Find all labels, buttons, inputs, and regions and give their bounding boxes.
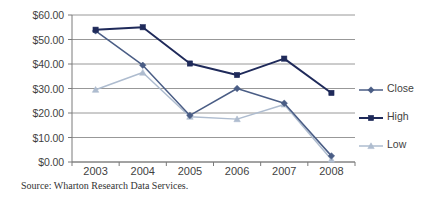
data-point-marker	[93, 27, 98, 32]
series-high	[93, 25, 334, 96]
series-close	[92, 28, 334, 159]
data-point-marker	[282, 56, 287, 61]
legend-label: Low	[387, 138, 406, 150]
data-point-marker	[234, 72, 239, 77]
data-point-marker	[140, 69, 146, 75]
y-tick-label: $10.00	[32, 132, 64, 144]
y-tick-label: $20.00	[32, 107, 64, 119]
chart-legend: CloseHighLow	[358, 78, 433, 162]
chart-canvas	[72, 15, 355, 162]
data-point-marker	[234, 85, 240, 91]
data-point-marker	[140, 25, 145, 30]
legend-item-high[interactable]: High	[358, 106, 433, 126]
source-caption: Source: Wharton Research Data Services.	[21, 180, 188, 191]
legend-marker	[368, 87, 374, 93]
series-low	[92, 69, 334, 162]
x-tick-label: 2007	[272, 165, 296, 177]
x-tick-label: 2005	[178, 165, 202, 177]
y-tick-label: $50.00	[32, 34, 64, 46]
legend-label: Close	[387, 82, 414, 94]
series-line	[96, 27, 332, 93]
x-axis: 200320042005200620072008	[72, 165, 355, 181]
x-tick-label: 2008	[319, 165, 343, 177]
y-axis: $0.00$10.00$20.00$30.00$40.00$50.00$60.0…	[0, 15, 68, 162]
legend-swatch-high-icon	[358, 110, 384, 122]
legend-swatch-low-icon	[358, 138, 384, 150]
gridlines	[72, 15, 355, 162]
y-tick-label: $30.00	[32, 83, 64, 95]
x-tick-label: 2004	[131, 165, 155, 177]
plot-area	[72, 15, 355, 162]
legend-label: High	[387, 110, 409, 122]
x-tick-label: 2003	[83, 165, 107, 177]
x-tick-label: 2006	[225, 165, 249, 177]
legend-item-close[interactable]: Close	[358, 78, 433, 98]
y-tick-label: $60.00	[32, 9, 64, 21]
y-tick-label: $40.00	[32, 58, 64, 70]
legend-item-low[interactable]: Low	[358, 134, 433, 154]
legend-marker	[368, 115, 373, 120]
chart-figure: $0.00$10.00$20.00$30.00$40.00$50.00$60.0…	[0, 0, 433, 202]
axis-spines	[68, 15, 355, 166]
legend-swatch-close-icon	[358, 82, 384, 94]
data-point-marker	[329, 90, 334, 95]
data-point-marker	[368, 87, 374, 93]
data-point-marker	[368, 115, 373, 120]
data-point-marker	[187, 61, 192, 66]
y-tick-label: $0.00	[38, 156, 64, 168]
